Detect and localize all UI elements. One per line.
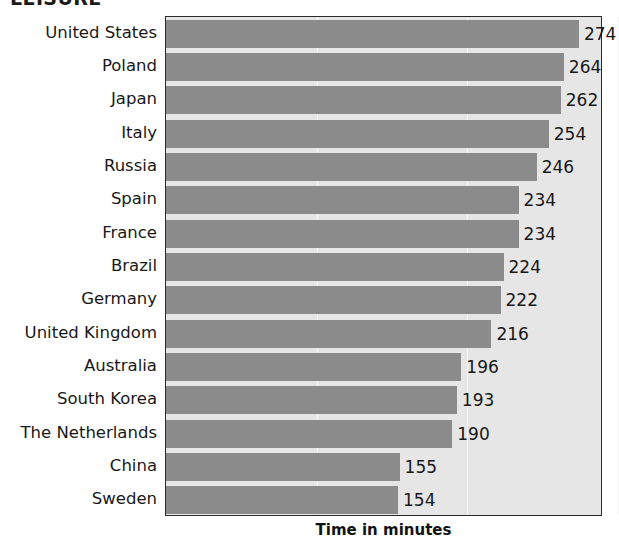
bar-row: 216 [166, 320, 601, 348]
bar [166, 86, 561, 114]
bar-series: 2742642622542462342342242222161961931901… [166, 17, 601, 515]
bar-value-label: 274 [579, 24, 616, 44]
category-label: Russia [104, 152, 157, 180]
bar-value-label: 155 [400, 457, 437, 477]
bar [166, 353, 461, 381]
category-label: France [102, 219, 157, 247]
bar [166, 153, 537, 181]
bar-row: 262 [166, 86, 601, 114]
bar-value-label: 264 [564, 57, 601, 77]
bar [166, 220, 519, 248]
bar [166, 53, 564, 81]
bar [166, 453, 400, 481]
bar [166, 253, 504, 281]
bar-value-label: 254 [549, 124, 586, 144]
category-axis-labels: United StatesPolandJapanItalyRussiaSpain… [0, 16, 161, 516]
bar-row: 193 [166, 386, 601, 414]
bar [166, 186, 519, 214]
bar-row: 274 [166, 20, 601, 48]
plot-area: 2742642622542462342342242222161961931901… [165, 16, 602, 516]
bar-row: 234 [166, 220, 601, 248]
bar-row: 254 [166, 120, 601, 148]
bar-value-label: 224 [504, 257, 541, 277]
bar-row: 154 [166, 486, 601, 514]
category-label: Italy [121, 119, 157, 147]
category-label: Australia [84, 352, 157, 380]
bar [166, 20, 579, 48]
category-label: United States [45, 19, 157, 47]
bar [166, 120, 549, 148]
bar-value-label: 234 [519, 190, 556, 210]
bar-value-label: 193 [457, 390, 494, 410]
bar-value-label: 196 [461, 357, 498, 377]
bar-value-label: 246 [537, 157, 574, 177]
bar-row: 222 [166, 286, 601, 314]
bar [166, 420, 452, 448]
category-label: Brazil [111, 252, 157, 280]
bar-row: 155 [166, 453, 601, 481]
category-label: Japan [111, 85, 157, 113]
bar-row: 264 [166, 53, 601, 81]
bar-row: 246 [166, 153, 601, 181]
bar [166, 320, 491, 348]
bar-row: 196 [166, 353, 601, 381]
bar-value-label: 190 [452, 424, 489, 444]
category-label: The Netherlands [20, 419, 157, 447]
bar [166, 386, 457, 414]
bar-row: 224 [166, 253, 601, 281]
category-label: South Korea [57, 385, 157, 413]
category-label: United Kingdom [25, 319, 157, 347]
bar-value-label: 222 [501, 290, 538, 310]
chart-title: LEISURE [10, 0, 102, 9]
bar-value-label: 234 [519, 224, 556, 244]
x-axis-title: Time in minutes [165, 521, 602, 539]
bar-value-label: 216 [491, 324, 528, 344]
category-label: Poland [102, 52, 157, 80]
bar [166, 286, 501, 314]
bar-value-label: 262 [561, 90, 598, 110]
bar-value-label: 154 [398, 490, 435, 510]
bar [166, 486, 398, 514]
bar-row: 190 [166, 420, 601, 448]
category-label: Spain [111, 185, 157, 213]
category-label: Germany [81, 285, 157, 313]
category-label: China [110, 452, 157, 480]
category-label: Sweden [92, 485, 157, 513]
bar-row: 234 [166, 186, 601, 214]
